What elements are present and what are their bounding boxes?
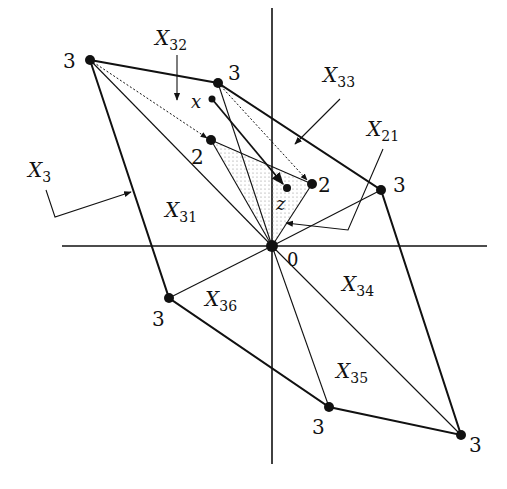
vertex-label-left: 3 (152, 307, 165, 331)
vertex-label-right: 3 (393, 173, 406, 197)
origin-label: 0 (287, 249, 298, 270)
region-label-X31: X31 (163, 198, 197, 225)
fan-diagram: 3 3 3 3 3 3 2 2 0 x z X32 X33 X21 X3 X31… (0, 0, 507, 489)
region-label-X33: X33 (321, 63, 355, 90)
vertex-label-bottom: 3 (312, 415, 325, 439)
region-label-X3: X3 (26, 158, 51, 185)
pointer-X3 (46, 190, 131, 217)
region-label-X34: X34 (340, 272, 374, 299)
vertex-label-top-left: 3 (63, 49, 76, 73)
vertex-label-mid-left: 2 (191, 145, 204, 169)
pointer-X33 (295, 99, 340, 144)
region-label-X32: X32 (153, 26, 187, 53)
vertex-label-top: 3 (228, 61, 241, 85)
vertex-label-bottom-right: 3 (469, 433, 482, 457)
region-label-X21: X21 (365, 117, 399, 144)
point-label-x: x (191, 91, 201, 112)
dotted-arrow-3-to-2-left (90, 60, 207, 138)
region-label-X36: X36 (203, 287, 237, 314)
region-label-X35: X35 (334, 359, 368, 386)
shaded-cone-X21 (211, 140, 312, 246)
point-label-z: z (275, 193, 286, 214)
vertex-label-mid-right: 2 (318, 173, 331, 197)
